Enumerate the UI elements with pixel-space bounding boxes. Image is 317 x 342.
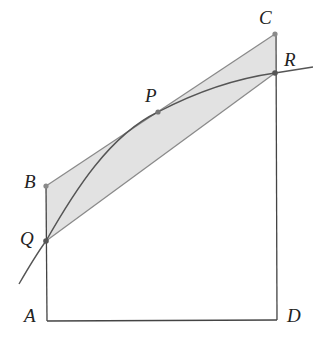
label-q: Q (20, 229, 34, 248)
point-b (43, 183, 48, 188)
geometry-figure (0, 0, 317, 342)
label-d: D (287, 306, 301, 325)
point-q (43, 238, 49, 244)
label-b: B (24, 172, 36, 191)
diagram-canvas: A B C D P Q R (0, 0, 317, 342)
label-a: A (24, 306, 36, 325)
label-p: P (145, 86, 157, 105)
segment-cd (276, 34, 277, 320)
shaded-region (46, 34, 275, 241)
label-c: C (259, 8, 272, 27)
point-p (155, 109, 160, 114)
point-r (272, 70, 278, 76)
segment-qr (46, 73, 275, 241)
segment-ad (47, 320, 277, 321)
point-c (272, 31, 277, 36)
label-r: R (284, 50, 296, 69)
